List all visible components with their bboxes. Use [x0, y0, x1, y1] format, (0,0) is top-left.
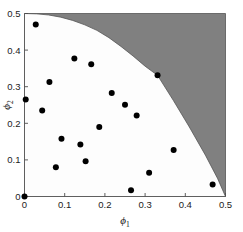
data-point	[171, 147, 177, 153]
data-point	[33, 21, 39, 27]
y-tick-label: 0.5	[7, 8, 20, 19]
data-point	[88, 61, 94, 67]
data-point	[83, 158, 89, 164]
x-tick-label: 0.4	[179, 199, 192, 210]
x-axis-title: ϕ1	[120, 214, 130, 229]
y-tick-label: 0.2	[7, 118, 20, 129]
data-point	[23, 97, 29, 103]
data-point	[22, 194, 28, 200]
x-tick-label: 0.3	[138, 199, 151, 210]
y-tick-label: 0.4	[7, 45, 20, 56]
y-tick-label: 0	[15, 191, 20, 202]
data-point	[71, 56, 77, 62]
data-point	[58, 136, 64, 142]
data-point	[46, 79, 52, 85]
data-point	[155, 72, 161, 78]
scatter-plot-svg: 00.10.20.30.40.5 00.10.20.30.40.5 ϕ1 ϕ2	[0, 0, 243, 232]
chart-figure: 00.10.20.30.40.5 00.10.20.30.40.5 ϕ1 ϕ2	[0, 0, 243, 232]
data-point	[122, 102, 128, 108]
data-point	[109, 90, 115, 96]
y-axis-title: ϕ2	[0, 100, 15, 110]
x-tick-label: 0	[22, 199, 27, 210]
y-tick-label: 0.1	[7, 154, 20, 165]
data-point	[146, 170, 152, 176]
data-point	[53, 164, 59, 170]
data-point	[39, 107, 45, 113]
data-point	[134, 113, 140, 119]
data-point	[210, 181, 216, 187]
data-point	[96, 124, 102, 130]
data-point	[128, 187, 134, 193]
x-tick-label: 0.5	[219, 199, 232, 210]
x-tick-label: 0.2	[98, 199, 111, 210]
y-tick-label: 0.3	[7, 81, 20, 92]
data-point	[77, 142, 83, 148]
x-tick-label: 0.1	[58, 199, 71, 210]
